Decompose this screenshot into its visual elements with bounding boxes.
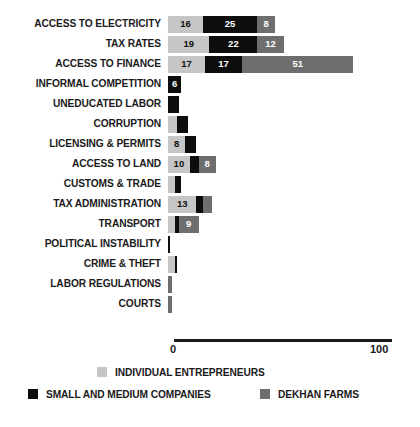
category-label: LABOR REGULATIONS bbox=[0, 279, 168, 289]
category-label: ACCESS TO LAND bbox=[0, 159, 168, 169]
bar-segment-value: 8 bbox=[263, 19, 268, 29]
bar-segment-value: 9 bbox=[186, 219, 191, 229]
bar-segment-dkf: 9 bbox=[179, 216, 199, 233]
category-label: CUSTOMS & TRADE bbox=[0, 179, 168, 189]
legend-item-dekhan-farms: DEKHAN FARMS bbox=[260, 386, 359, 402]
bar-segment-dkf: 8 bbox=[257, 16, 274, 33]
legend-label-small-and-medium-companies: SMALL AND MEDIUM COMPANIES bbox=[46, 389, 211, 400]
bar-track: 33 bbox=[168, 174, 420, 194]
x-axis-line bbox=[174, 339, 392, 342]
bar-segment-value: 17 bbox=[181, 59, 192, 69]
bar-segment-value: 12 bbox=[265, 39, 276, 49]
x-axis-tick-0: 0 bbox=[170, 343, 176, 355]
bar-segment-dkf: 8 bbox=[199, 156, 216, 173]
chart-row: COURTS bbox=[0, 294, 420, 314]
bar-segment-dkf: 12 bbox=[257, 36, 283, 53]
chart-legend: INDIVIDUAL ENTREPRENEURS SMALL AND MEDIU… bbox=[0, 364, 420, 410]
bar-segment-dkf bbox=[168, 296, 172, 313]
category-label: COURTS bbox=[0, 299, 168, 309]
chart-row: ACCESS TO ELECTRICITY16258 bbox=[0, 14, 420, 34]
bar-segment-value: 13 bbox=[177, 199, 188, 209]
bar-segment-dkf: 51 bbox=[242, 56, 353, 73]
chart-row: INFORMAL COMPETITION6 bbox=[0, 74, 420, 94]
chart-row: LICENSING & PERMITS85 bbox=[0, 134, 420, 154]
legend-label-dekhan-farms: DEKHAN FARMS bbox=[278, 389, 359, 400]
bar-segment-value: 8 bbox=[205, 159, 210, 169]
bar-segment-smc: 5 bbox=[185, 136, 196, 153]
chart-row: LABOR REGULATIONS bbox=[0, 274, 420, 294]
category-label: CORRUPTION bbox=[0, 119, 168, 129]
bar-track: 192212 bbox=[168, 34, 420, 54]
category-label: INFORMAL COMPETITION bbox=[0, 79, 168, 89]
bar-segment-smc: 17 bbox=[205, 56, 242, 73]
category-label: LICENSING & PERMITS bbox=[0, 139, 168, 149]
bar-track: 6 bbox=[168, 74, 420, 94]
bar-segment-dkf bbox=[168, 276, 172, 293]
bar-track bbox=[168, 274, 420, 294]
chart-row: TAX ADMINISTRATION1334 bbox=[0, 194, 420, 214]
chart-row: ACCESS TO FINANCE171751 bbox=[0, 54, 420, 74]
category-label: CRIME & THEFT bbox=[0, 259, 168, 269]
category-label: TAX RATES bbox=[0, 39, 168, 49]
category-label: TRANSPORT bbox=[0, 219, 168, 229]
bar-track: 39 bbox=[168, 214, 420, 234]
category-label: UNEDUCATED LABOR bbox=[0, 99, 168, 109]
bar-segment-ie: 10 bbox=[168, 156, 190, 173]
bar-track: 1334 bbox=[168, 194, 420, 214]
bar-track bbox=[168, 234, 420, 254]
category-label: POLITICAL INSTABILITY bbox=[0, 239, 168, 249]
chart-row: CUSTOMS & TRADE33 bbox=[0, 174, 420, 194]
bar-segment-ie: 4 bbox=[168, 116, 177, 133]
bar-segment-smc: 3 bbox=[175, 176, 182, 193]
stacked-bar-chart: ACCESS TO ELECTRICITY16258TAX RATES19221… bbox=[0, 0, 420, 427]
bar-segment-ie: 8 bbox=[168, 136, 185, 153]
bar-track bbox=[168, 294, 420, 314]
bar-track: 16258 bbox=[168, 14, 420, 34]
chart-row: POLITICAL INSTABILITY bbox=[0, 234, 420, 254]
legend-swatch-icon-dekhan-farms bbox=[260, 389, 270, 399]
bar-segment-smc: 6 bbox=[168, 76, 181, 93]
legend-swatch-icon-individual-entrepreneurs bbox=[97, 367, 107, 377]
bar-track: 3 bbox=[168, 254, 420, 274]
bar-segment-value: 6 bbox=[172, 79, 177, 89]
bar-segment-value: 8 bbox=[174, 139, 179, 149]
legend-label-individual-entrepreneurs: INDIVIDUAL ENTREPRENEURS bbox=[115, 367, 265, 378]
chart-row: CORRUPTION45 bbox=[0, 114, 420, 134]
bar-segment-value: 25 bbox=[225, 19, 236, 29]
chart-row: TAX RATES192212 bbox=[0, 34, 420, 54]
chart-row: ACCESS TO LAND1048 bbox=[0, 154, 420, 174]
legend-swatch-icon-small-and-medium-companies bbox=[28, 389, 38, 399]
bar-segment-smc bbox=[168, 236, 170, 253]
bar-track: 5 bbox=[168, 94, 420, 114]
chart-row: TRANSPORT39 bbox=[0, 214, 420, 234]
legend-item-individual-entrepreneurs: INDIVIDUAL ENTREPRENEURS bbox=[97, 364, 265, 380]
x-axis: 0 100 bbox=[0, 334, 420, 362]
bar-track: 171751 bbox=[168, 54, 420, 74]
bar-segment-smc: 4 bbox=[190, 156, 199, 173]
bar-segment-ie: 19 bbox=[168, 36, 209, 53]
bar-segment-value: 51 bbox=[292, 59, 303, 69]
bar-segment-smc: 22 bbox=[209, 36, 257, 53]
bar-track: 45 bbox=[168, 114, 420, 134]
bar-segment-ie: 13 bbox=[168, 196, 196, 213]
category-label: TAX ADMINISTRATION bbox=[0, 199, 168, 209]
category-label: ACCESS TO FINANCE bbox=[0, 59, 168, 69]
bar-segment-smc: 25 bbox=[203, 16, 258, 33]
bar-segment-ie: 16 bbox=[168, 16, 203, 33]
bar-segment-value: 19 bbox=[183, 39, 194, 49]
bar-segment-value: 17 bbox=[218, 59, 229, 69]
legend-item-small-and-medium-companies: SMALL AND MEDIUM COMPANIES bbox=[28, 386, 211, 402]
bar-segment-ie: 17 bbox=[168, 56, 205, 73]
chart-row: CRIME & THEFT3 bbox=[0, 254, 420, 274]
bar-segment-dkf: 4 bbox=[203, 196, 212, 213]
chart-row: UNEDUCATED LABOR5 bbox=[0, 94, 420, 114]
plot-area: ACCESS TO ELECTRICITY16258TAX RATES19221… bbox=[0, 14, 420, 334]
bar-track: 85 bbox=[168, 134, 420, 154]
category-label: ACCESS TO ELECTRICITY bbox=[0, 19, 168, 29]
bar-segment-value: 22 bbox=[228, 39, 239, 49]
bar-segment-smc: 5 bbox=[177, 116, 188, 133]
bar-track: 1048 bbox=[168, 154, 420, 174]
bar-segment-smc: 5 bbox=[168, 96, 179, 113]
bar-segment-value: 16 bbox=[180, 19, 191, 29]
bar-segment-value: 10 bbox=[174, 159, 185, 169]
